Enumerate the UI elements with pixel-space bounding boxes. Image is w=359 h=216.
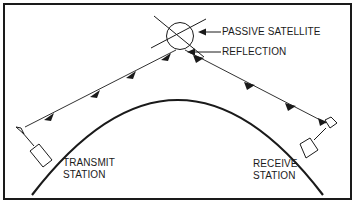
transmit-station-label-line2: STATION (63, 169, 106, 180)
receive-station-label-line1: RECEIVE (253, 158, 298, 169)
receive-station-icon (300, 117, 337, 158)
uplink-path (25, 50, 176, 127)
transmit-station-label-line1: TRANSMIT (63, 157, 115, 168)
transmit-station-icon (16, 127, 52, 167)
receive-station-label-line2: STATION (253, 170, 296, 181)
satellite-label: PASSIVE SATELLITE (222, 26, 321, 37)
passive-satellite-icon (151, 16, 206, 57)
downlink-path (185, 50, 327, 126)
reflection-label: REFLECTION (222, 46, 286, 57)
